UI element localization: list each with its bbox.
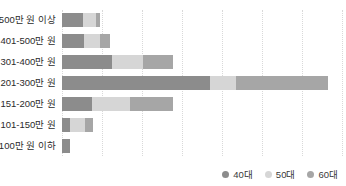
bar-segment-50대[interactable] [92, 97, 130, 111]
chart-row: 101-150만 원 [62, 115, 342, 135]
legend-item-40대[interactable]: 40대 [222, 167, 253, 181]
bar-segment-60대[interactable] [85, 118, 93, 132]
category-label: 301-400만 원 [0, 52, 56, 72]
bar-segment-50대[interactable] [83, 13, 96, 27]
bar-stack[interactable] [62, 76, 328, 90]
bar-segment-50대[interactable] [112, 55, 143, 69]
chart-row: 500만 원 이상 [62, 10, 342, 30]
bar-segment-50대[interactable] [70, 118, 85, 132]
bar-segment-40대[interactable] [62, 97, 92, 111]
bar-segment-40대[interactable] [62, 34, 84, 48]
bar-segment-40대[interactable] [62, 118, 70, 132]
bar-segment-50대[interactable] [84, 34, 100, 48]
bar-stack[interactable] [62, 34, 110, 48]
chart-row: 201-300만 원 [62, 73, 342, 93]
bar-segment-60대[interactable] [96, 13, 100, 27]
category-label: 151-200만 원 [0, 94, 56, 114]
chart-legend: 40대50대60대 [222, 167, 338, 181]
legend-label: 40대 [233, 167, 253, 181]
bar-segment-40대[interactable] [62, 139, 70, 153]
category-label: 100만 원 이하 [0, 136, 56, 156]
category-label: 500만 원 이상 [0, 10, 56, 30]
bar-stack[interactable] [62, 13, 100, 27]
gridline-7 [342, 10, 344, 156]
bar-segment-40대[interactable] [62, 76, 210, 90]
bar-segment-40대[interactable] [62, 13, 83, 27]
legend-swatch-icon [222, 171, 229, 178]
bar-segment-60대[interactable] [100, 34, 110, 48]
bar-stack[interactable] [62, 139, 70, 153]
bar-segment-40대[interactable] [62, 55, 112, 69]
category-label: 201-300만 원 [0, 73, 56, 93]
category-label: 101-150만 원 [0, 115, 56, 135]
bar-segment-60대[interactable] [143, 55, 173, 69]
bar-segment-60대[interactable] [130, 97, 173, 111]
legend-label: 60대 [318, 167, 338, 181]
bar-stack[interactable] [62, 97, 173, 111]
stacked-bar-chart: 500만 원 이상401-500만 원301-400만 원201-300만 원1… [0, 0, 346, 186]
legend-swatch-icon [307, 171, 314, 178]
legend-item-60대[interactable]: 60대 [307, 167, 338, 181]
plot-area: 500만 원 이상401-500만 원301-400만 원201-300만 원1… [62, 10, 342, 156]
bar-segment-60대[interactable] [236, 76, 328, 90]
chart-row: 401-500만 원 [62, 31, 342, 51]
chart-row: 100만 원 이하 [62, 136, 342, 156]
legend-item-50대[interactable]: 50대 [265, 167, 296, 181]
bar-segment-50대[interactable] [210, 76, 236, 90]
chart-row: 301-400만 원 [62, 52, 342, 72]
legend-label: 50대 [276, 167, 296, 181]
chart-row: 151-200만 원 [62, 94, 342, 114]
category-label: 401-500만 원 [0, 31, 56, 51]
legend-swatch-icon [265, 171, 272, 178]
bar-stack[interactable] [62, 118, 93, 132]
bar-stack[interactable] [62, 55, 173, 69]
